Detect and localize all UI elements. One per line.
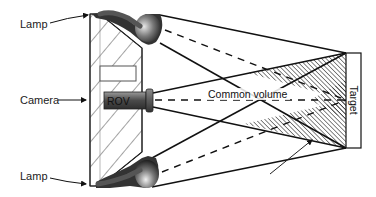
lamp-top-label: Lamp <box>20 18 48 30</box>
rov-inner-window <box>100 66 136 81</box>
lamp-bottom-label: Lamp <box>20 170 48 182</box>
lamp-top-callout: Lamp <box>20 15 88 30</box>
rov-label: ROV <box>107 95 130 107</box>
target-label: Target <box>348 85 360 114</box>
rov-camera: ROV <box>104 89 153 112</box>
rov-lighting-diagram: Target ROV Common volume Lamp Camera <box>0 0 376 197</box>
camera-callout: Camera <box>20 94 86 106</box>
common-volume-pointer <box>270 140 312 174</box>
lamp-bottom-callout: Lamp <box>20 170 86 184</box>
camera-label: Camera <box>20 94 60 106</box>
target-plate: Target <box>346 53 361 148</box>
common-volume-label: Common volume <box>208 88 288 100</box>
